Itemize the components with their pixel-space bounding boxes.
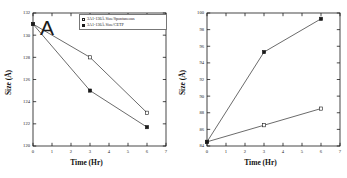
panel-a-letter: A (40, 17, 54, 38)
x-tick-label: 6 (139, 149, 155, 154)
x-tick-label: 1 (44, 149, 60, 154)
x-tick-label: 7 (332, 149, 347, 154)
y-tick-label: 122 (9, 121, 30, 126)
legend-entry: 3A1-136Å Size/CETP (82, 22, 164, 28)
y-tick-label: 128 (9, 55, 30, 60)
y-tick-label: 126 (9, 77, 30, 82)
y-tick-label: 100 (183, 10, 204, 15)
y-tick-label: 120 (9, 143, 30, 148)
y-tick-label: 84 (183, 143, 204, 148)
open-square-marker-icon (82, 18, 85, 21)
panel-b: B HDL3 Size/Spontaneous HDL3 Size/CETP T… (174, 0, 347, 178)
panel-a-x-axis-title: Time (Hr) (0, 158, 173, 167)
y-tick-label: 86 (183, 127, 204, 132)
x-tick-label: 7 (158, 149, 174, 154)
legend-label: 3A1-136Å Size/CETP (87, 22, 124, 28)
panel-b-x-axis-title: Time (Hr) (174, 158, 347, 167)
x-tick-label: 0 (25, 149, 41, 154)
x-tick-label: 6 (313, 149, 329, 154)
x-tick-label: 3 (82, 149, 98, 154)
y-tick-label: 132 (9, 10, 30, 15)
x-tick-label: 2 (237, 149, 253, 154)
panel-a: A 3A1-136Å Size/Spontaneous 3A1-136Å Siz… (0, 0, 173, 178)
panel-a-legend: 3A1-136Å Size/Spontaneous 3A1-136Å Size/… (79, 14, 167, 30)
figure-container: A 3A1-136Å Size/Spontaneous 3A1-136Å Siz… (0, 0, 347, 178)
x-tick-label: 3 (256, 149, 272, 154)
x-tick-label: 1 (218, 149, 234, 154)
y-tick-label: 92 (183, 77, 204, 82)
x-tick-label: 2 (63, 149, 79, 154)
x-tick-label: 5 (294, 149, 310, 154)
y-tick-label: 96 (183, 44, 204, 49)
filled-square-marker-icon (82, 24, 85, 27)
y-tick-label: 88 (183, 110, 204, 115)
y-tick-label: 94 (183, 60, 204, 65)
x-tick-label: 4 (275, 149, 291, 154)
x-tick-label: 4 (101, 149, 117, 154)
y-tick-label: 124 (9, 99, 30, 104)
x-tick-label: 0 (199, 149, 215, 154)
y-tick-label: 130 (9, 33, 30, 38)
y-tick-label: 90 (183, 94, 204, 99)
y-tick-label: 98 (183, 27, 204, 32)
x-tick-label: 5 (120, 149, 136, 154)
